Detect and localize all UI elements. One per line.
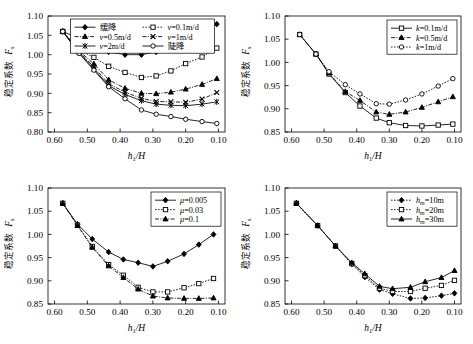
y-tick-label: 0.95 (27, 69, 43, 79)
svg-text:稳定系数: 稳定系数 (3, 61, 14, 97)
y-tick-label: 1.10 (264, 11, 280, 21)
y-tick-label: 0.95 (264, 81, 280, 91)
legend: 缓降v=0.1m/dv=0.5m/dv=1m/dv=2m/d陡降 (71, 19, 215, 53)
y-tick-label: 1.05 (27, 206, 43, 216)
x-tick-label: 0.10 (210, 307, 226, 317)
legend-label: k=0.1m/d (416, 24, 447, 33)
x-tick-label: 0.40 (349, 307, 365, 317)
y-tick-label: 0.90 (264, 276, 280, 286)
x-axis-title: h1/H (128, 323, 147, 334)
y-tick-label: 0.85 (264, 299, 280, 309)
y-tick-label: 0.95 (264, 253, 280, 263)
chart-svg: 0.850.900.951.001.051.100.600.500.400.30… (237, 0, 473, 172)
x-tick-label: 0.60 (47, 135, 63, 145)
y-tick-label: 0.85 (264, 127, 280, 137)
chart-svg: 0.850.900.951.001.051.100.600.500.400.30… (237, 172, 473, 344)
y-tick-label: 1.10 (264, 183, 280, 193)
x-tick-label: 0.30 (381, 135, 397, 145)
legend-label: v=2m/d (100, 42, 125, 51)
svg-text:Fs: Fs (4, 46, 15, 56)
legend-label: μ=0.005 (179, 196, 207, 205)
x-axis-title: h1/H (364, 151, 383, 162)
svg-text:稳定系数: 稳定系数 (240, 233, 251, 269)
y-tick-label: 1.00 (264, 58, 280, 68)
x-tick-label: 0.50 (79, 307, 95, 317)
svg-text:Fs: Fs (4, 218, 15, 228)
chart-svg: 0.850.900.951.001.051.100.600.500.400.30… (0, 172, 237, 344)
legend-label: μ=0.1 (179, 215, 199, 224)
x-axis-title: h1/H (128, 151, 147, 162)
x-tick-label: 0.20 (414, 135, 430, 145)
chart-panel-top-left: 0.800.850.900.951.001.051.100.600.500.40… (0, 0, 237, 172)
y-tick-label: 1.05 (27, 31, 43, 41)
x-tick-label: 0.60 (47, 307, 63, 317)
y-tick-label: 0.90 (27, 89, 43, 99)
x-tick-label: 0.20 (414, 307, 430, 317)
legend: hm=10mhm=20mhm=30m (387, 192, 457, 226)
x-tick-label: 0.10 (210, 135, 226, 145)
x-tick-label: 0.30 (381, 307, 397, 317)
svg-text:Fs: Fs (241, 218, 252, 228)
y-tick-label: 1.10 (27, 11, 43, 21)
y-tick-label: 0.90 (264, 104, 280, 114)
y-tick-label: 0.85 (27, 299, 43, 309)
x-tick-label: 0.20 (178, 135, 194, 145)
y-tick-label: 1.00 (264, 230, 280, 240)
x-tick-label: 0.30 (145, 135, 161, 145)
y-tick-label: 0.80 (27, 127, 43, 137)
y-tick-label: 1.00 (27, 230, 43, 240)
x-tick-label: 0.50 (79, 135, 95, 145)
y-axis-title: 稳定系数Fs (240, 218, 252, 269)
y-tick-label: 0.85 (27, 108, 43, 118)
x-tick-label: 0.40 (349, 135, 365, 145)
y-tick-label: 1.05 (264, 34, 280, 44)
legend-marker-sample (151, 44, 155, 48)
x-tick-label: 0.10 (446, 135, 462, 145)
legend-label: k=1m/d (416, 43, 441, 52)
x-tick-label: 0.40 (112, 135, 128, 145)
chart-svg: 0.800.850.900.951.001.051.100.600.500.40… (0, 0, 237, 172)
x-tick-label: 0.50 (316, 135, 332, 145)
y-axis-title: 稳定系数Fs (240, 46, 252, 97)
legend-label: 陡降 (168, 41, 185, 51)
y-tick-label: 1.10 (27, 183, 43, 193)
y-tick-label: 1.00 (27, 50, 43, 60)
y-axis-title: 稳定系数Fs (3, 218, 15, 269)
x-tick-label: 0.50 (316, 307, 332, 317)
legend-marker-sample (163, 207, 167, 211)
x-axis-title: h1/H (364, 323, 383, 334)
svg-text:稳定系数: 稳定系数 (3, 233, 14, 269)
x-tick-label: 0.30 (145, 307, 161, 317)
chart-panel-top-right: 0.850.900.951.001.051.100.600.500.400.30… (237, 0, 473, 172)
legend: k=0.1m/dk=0.5m/dk=1m/d (387, 20, 457, 54)
y-axis-title: 稳定系数Fs (3, 46, 15, 97)
figure-grid: 0.800.850.900.951.001.051.100.600.500.40… (0, 0, 473, 344)
legend-label: v=0.1m/d (168, 23, 199, 32)
svg-text:稳定系数: 稳定系数 (240, 61, 251, 97)
y-tick-label: 1.05 (264, 206, 280, 216)
chart-panel-bottom-left: 0.850.900.951.001.051.100.600.500.400.30… (0, 172, 237, 344)
y-tick-label: 0.95 (27, 253, 43, 263)
y-tick-label: 0.90 (27, 276, 43, 286)
legend-label: k=0.5m/d (416, 34, 447, 43)
x-tick-label: 0.20 (178, 307, 194, 317)
legend-marker-sample (399, 207, 403, 211)
x-tick-label: 0.40 (112, 307, 128, 317)
legend-marker-sample (399, 45, 403, 49)
chart-panel-bottom-right: 0.850.900.951.001.051.100.600.500.400.30… (237, 172, 473, 344)
x-tick-label: 0.60 (283, 307, 299, 317)
legend-label: μ=0.03 (179, 206, 203, 215)
legend-label: 缓降 (100, 22, 117, 32)
x-tick-label: 0.10 (446, 307, 462, 317)
legend-marker-sample (151, 25, 155, 29)
legend-label: v=0.5m/d (100, 33, 131, 42)
svg-text:Fs: Fs (241, 46, 252, 56)
x-tick-label: 0.60 (283, 135, 299, 145)
legend: μ=0.005μ=0.03μ=0.1 (151, 192, 221, 226)
legend-marker-sample (399, 26, 403, 30)
